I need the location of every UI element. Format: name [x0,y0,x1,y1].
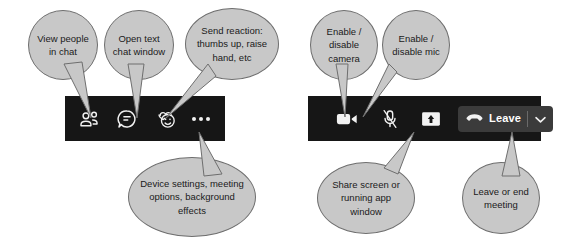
share-screen-button[interactable] [421,111,441,127]
chevron-down-icon[interactable] [534,110,547,128]
callout-tail-leave-meeting [492,130,532,180]
annotated-toolbar-diagram: View people in chat Open text chat windo… [0,0,568,247]
leave-button-label: Leave [489,113,521,124]
hangup-phone-icon [466,110,483,128]
share-screen-icon [421,111,441,127]
callout-tail-enable-mic [355,62,399,120]
callout-tail-send-reaction [158,62,220,122]
leave-button-divider [527,111,528,127]
callout-tail-view-people [52,60,112,122]
callout-tail-open-chat [120,62,160,122]
callout-tail-device-settings [188,130,232,180]
callout-tail-share-screen [362,130,422,180]
leave-button[interactable]: Leave [458,106,553,132]
